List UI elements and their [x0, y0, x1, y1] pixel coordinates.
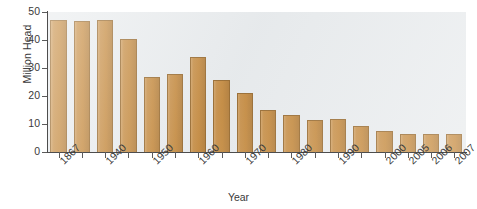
y-tick-label: 0	[18, 146, 40, 157]
y-tick-label: 10	[18, 118, 40, 129]
bar-chart: Million Head 01020304050 186719401950196…	[0, 0, 477, 209]
bar	[74, 21, 90, 152]
y-tick-mark	[42, 40, 47, 41]
bar	[237, 93, 253, 152]
bar-series	[47, 12, 466, 152]
bar	[213, 80, 229, 152]
y-tick-label: 20	[18, 90, 40, 101]
y-tick-label: 30	[18, 62, 40, 73]
y-tick-label: 40	[18, 34, 40, 45]
x-axis-title: Year	[0, 191, 477, 203]
plot-area	[47, 12, 466, 152]
bar	[190, 57, 206, 152]
bar	[50, 20, 66, 152]
y-tick-mark	[42, 12, 47, 13]
bar	[97, 20, 113, 152]
y-tick-label: 50	[18, 6, 40, 17]
y-tick-mark	[42, 68, 47, 69]
bar	[330, 119, 346, 152]
y-axis-line	[47, 11, 48, 153]
bar	[283, 115, 299, 152]
y-axis-ticks: 01020304050	[14, 0, 40, 209]
bar	[144, 77, 160, 152]
x-axis-tick-labels: 1867194019501960197019801990200020052006…	[47, 158, 467, 192]
y-tick-mark	[42, 124, 47, 125]
y-tick-mark	[42, 152, 47, 153]
y-tick-mark	[42, 96, 47, 97]
bar	[167, 74, 183, 152]
bar	[120, 39, 136, 152]
